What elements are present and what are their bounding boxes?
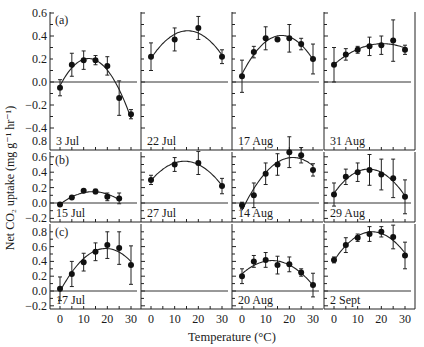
data-point — [239, 273, 245, 279]
x-axis-label: Temperature (°C) — [188, 330, 276, 344]
x-tick-label: 20 — [375, 312, 387, 326]
data-point — [148, 177, 154, 183]
panel-29-aug: 29 Aug — [324, 152, 415, 222]
data-point — [116, 95, 122, 101]
data-point — [148, 54, 154, 60]
data-point — [239, 73, 245, 79]
y-tick-label: 0.8 — [32, 134, 47, 148]
x-tick-label: 30 — [125, 312, 137, 326]
x-tick-label: 10 — [78, 312, 90, 326]
x-tick-label: 10 — [260, 312, 272, 326]
x-tick-label: 0 — [148, 312, 154, 326]
data-point — [239, 202, 245, 208]
y-tick-label: 0.0 — [32, 75, 47, 89]
data-point — [57, 286, 63, 292]
data-point — [298, 41, 304, 47]
data-point — [390, 38, 396, 44]
y-tick-labels: 0.60.40.20.0−0.2−0.40.80.60.40.20.0−0.20… — [25, 6, 47, 313]
panel-31-aug: 31 Aug — [324, 12, 415, 150]
data-point — [275, 162, 281, 168]
y-tick-label: 0.4 — [32, 165, 47, 179]
data-point — [69, 195, 75, 201]
panel-17-jul: (c)17 Jul — [50, 224, 141, 309]
data-point — [172, 162, 178, 168]
data-point — [343, 242, 349, 248]
y-tick-label: 0.6 — [32, 6, 47, 20]
data-point — [355, 169, 361, 175]
fit-curve — [151, 31, 222, 59]
panel-label: (b) — [55, 153, 69, 167]
data-point — [298, 270, 304, 276]
data-point — [286, 261, 292, 267]
x-tick-label: 20 — [283, 312, 295, 326]
panel-date-label: 2 Sept — [330, 293, 361, 307]
panel-date-label: 20 Aug — [238, 293, 273, 307]
data-point — [81, 259, 87, 265]
data-point — [378, 42, 384, 48]
x-tick-label: 10 — [352, 312, 364, 326]
data-point — [104, 194, 110, 200]
panel-label: (c) — [55, 225, 68, 239]
panel-2-sept: 2 Sept — [324, 224, 415, 309]
data-point — [286, 149, 292, 155]
data-point — [104, 242, 110, 248]
y-tick-label: −0.2 — [25, 299, 47, 313]
y-tick-label: 0.0 — [32, 284, 47, 298]
y-tick-label: 0.2 — [32, 181, 47, 195]
data-point — [310, 167, 316, 173]
data-point — [343, 174, 349, 180]
y-axis-label: Net CO₂ uptake (mg g⁻¹ hr⁻¹) — [3, 106, 17, 250]
data-point — [402, 47, 408, 53]
y-tick-label: 0.6 — [32, 240, 47, 254]
x-tick-label: 20 — [192, 312, 204, 326]
data-point — [251, 192, 257, 198]
data-point — [331, 257, 337, 263]
data-point — [219, 54, 225, 60]
panel-22-jul: 22 Jul — [141, 12, 232, 150]
data-point — [343, 51, 349, 57]
data-point — [402, 194, 408, 200]
panel-date-label: 17 Aug — [238, 134, 273, 148]
x-tick-label: 20 — [101, 312, 113, 326]
x-tick-label: 0 — [331, 312, 337, 326]
data-point — [355, 235, 361, 241]
x-tick-labels: 0102030010203001020300102030 — [57, 312, 411, 326]
data-point — [172, 36, 178, 42]
y-tick-label: −0.4 — [25, 121, 47, 135]
data-point — [195, 160, 201, 166]
data-point — [390, 175, 396, 181]
data-point — [298, 152, 304, 158]
x-tick-label: 0 — [239, 312, 245, 326]
data-point — [81, 188, 87, 194]
panel-3-jul: (a)3 Jul — [50, 12, 141, 150]
data-point — [390, 234, 396, 240]
y-tick-label: 0.2 — [32, 52, 47, 66]
data-point — [251, 49, 257, 55]
y-tick-label: 0.6 — [32, 150, 47, 164]
fit-curve — [151, 161, 222, 185]
data-point — [195, 25, 201, 31]
data-point — [81, 57, 87, 63]
y-tick-label: 0.4 — [32, 29, 47, 43]
data-point — [310, 56, 316, 62]
data-point — [93, 188, 99, 194]
data-point — [367, 167, 373, 173]
data-point — [69, 271, 75, 277]
data-point — [104, 63, 110, 69]
panel-label: (a) — [55, 13, 68, 27]
x-tick-label: 10 — [169, 312, 181, 326]
panel-grid: (a)3 Jul22 Jul17 Aug31 Aug(b)15 Jul27 Ju… — [50, 12, 415, 309]
panel-date-label: 3 Jul — [56, 134, 80, 148]
panel-17-aug: 17 Aug — [232, 12, 323, 150]
data-point — [57, 202, 63, 208]
panel-date-label: 27 Jul — [147, 206, 177, 220]
y-tick-label: 0.4 — [32, 254, 47, 268]
data-point — [116, 245, 122, 251]
data-point — [263, 171, 269, 177]
y-tick-label: −0.2 — [25, 98, 47, 112]
data-point — [263, 35, 269, 41]
data-point — [310, 282, 316, 288]
y-tick-label: 0.8 — [32, 225, 47, 239]
chart-figure: (a)3 Jul22 Jul17 Aug31 Aug(b)15 Jul27 Ju… — [0, 0, 424, 347]
data-point — [219, 183, 225, 189]
